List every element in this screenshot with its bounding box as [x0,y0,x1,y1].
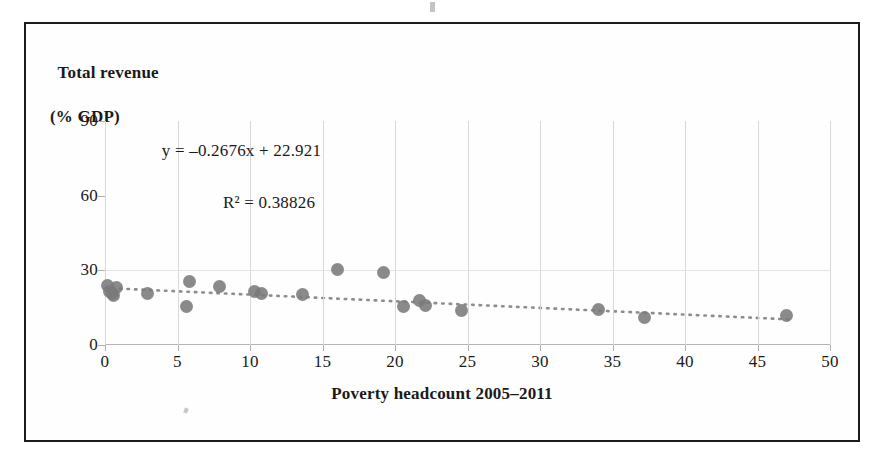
x-axis-tick [613,345,614,351]
x-axis-tick [685,345,686,351]
gridline-vertical [540,121,541,345]
data-point [419,299,432,312]
x-tick-label-group: 05101520253035404550 [105,352,830,378]
y-axis-tick [98,270,105,271]
x-axis-tick [178,345,179,351]
scan-artifact-speck-lower [183,407,188,413]
gridline-vertical [613,121,614,345]
regression-r-squared: R² = 0.38826 [144,190,321,216]
y-axis-tick-label: 30 [58,260,98,280]
x-axis-tick-label: 25 [448,352,488,372]
data-point [213,280,226,293]
gridline-vertical [758,121,759,345]
x-axis-tick-label: 45 [738,352,778,372]
x-axis-tick [323,345,324,351]
x-axis-tick [468,345,469,351]
x-axis-tick [830,345,831,351]
data-point [780,309,793,322]
x-axis-tick [105,345,106,351]
x-axis-tick [758,345,759,351]
data-point [638,311,651,324]
y-axis-tick-label: 60 [58,186,98,206]
x-axis-tick-label: 20 [375,352,415,372]
x-axis-tick-label: 10 [230,352,270,372]
data-point [331,263,344,276]
data-point [592,303,605,316]
x-axis-tick [250,345,251,351]
data-point [180,300,193,313]
figure-frame: Total revenue (% GDP) 0306090 0510152025… [24,22,860,442]
gridline-horizontal [105,270,830,271]
gridline-vertical [830,121,831,345]
x-axis-tick-label: 15 [303,352,343,372]
x-axis-tick-label: 5 [158,352,198,372]
data-point [183,275,196,288]
x-axis-tick [395,345,396,351]
y-axis-title-line1: Total revenue [58,63,159,82]
x-axis-title: Poverty headcount 2005–2011 [26,384,858,404]
x-axis-tick-label: 35 [593,352,633,372]
gridline-vertical [323,121,324,345]
y-axis-tick [98,196,105,197]
gridline-vertical [685,121,686,345]
y-axis-tick-label: 90 [58,111,98,131]
data-point [141,287,154,300]
data-point [296,288,309,301]
scan-artifact-speck [430,2,435,12]
x-axis-tick [540,345,541,351]
regression-equation: y = –0.2676x + 22.921 [162,141,321,160]
y-tick-label-group: 0306090 [54,121,98,345]
gridline-vertical [395,121,396,345]
data-point [255,287,268,300]
gridline-vertical [105,121,106,345]
y-axis-tick [98,121,105,122]
x-axis-tick-label: 40 [665,352,705,372]
x-axis-tick-label: 30 [520,352,560,372]
x-axis-tick-label: 0 [85,352,125,372]
x-axis-tick-label: 50 [810,352,850,372]
y-axis-tick [98,345,105,346]
regression-annotation: y = –0.2676x + 22.921 R² = 0.38826 [144,112,321,268]
